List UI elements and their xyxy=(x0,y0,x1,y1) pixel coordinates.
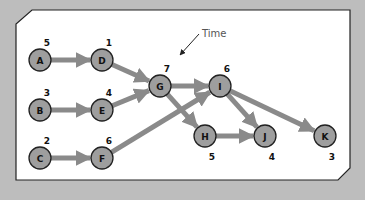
node-time-label: 7 xyxy=(164,64,170,74)
node-time-label: 5 xyxy=(209,152,215,162)
node-label: K xyxy=(322,132,330,142)
node-label: G xyxy=(156,82,163,92)
node-time-label: 3 xyxy=(329,152,335,162)
node-label: A xyxy=(37,56,44,66)
node-time-label: 5 xyxy=(44,38,50,48)
node-label: H xyxy=(201,132,209,142)
node-time-label: 4 xyxy=(269,152,275,162)
node-label: E xyxy=(99,106,105,116)
node-label: D xyxy=(98,56,105,66)
node-time-label: 4 xyxy=(106,88,112,98)
diagram-panel xyxy=(16,10,350,180)
node-label: I xyxy=(218,82,221,92)
node-time-label: 3 xyxy=(44,88,50,98)
time-label: Time xyxy=(201,28,226,39)
diagram-canvas: A5D1B3E4C2F6G7I6H5J4K3 Time xyxy=(0,0,365,200)
node-time-label: 6 xyxy=(224,64,230,74)
node-label: C xyxy=(37,154,44,164)
node-time-label: 6 xyxy=(106,136,112,146)
node-time-label: 1 xyxy=(106,38,112,48)
node-label: B xyxy=(37,106,44,116)
network-diagram: A5D1B3E4C2F6G7I6H5J4K3 Time xyxy=(0,0,365,200)
node-label: J xyxy=(262,132,266,142)
node-time-label: 2 xyxy=(44,136,50,146)
node-label: F xyxy=(99,154,105,164)
